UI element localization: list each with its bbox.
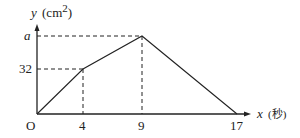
data-line [37, 36, 237, 114]
x-tick-9: 9 [138, 118, 145, 133]
y-axis-label: y (cm2) [29, 2, 72, 20]
y-tick-a: a [24, 28, 31, 43]
x-tick-4: 4 [79, 118, 86, 133]
origin-label: O [26, 118, 35, 133]
x-axis-arrow-icon [244, 112, 251, 117]
x-axis-label: x (秒) [256, 106, 287, 121]
area-time-graph: y (cm2) a 32 O 4 9 17 x (秒) [0, 0, 300, 138]
guide-lines [37, 36, 142, 114]
x-tick-17: 17 [230, 118, 244, 133]
y-axis-arrow-icon [35, 24, 40, 31]
y-tick-32: 32 [19, 61, 32, 76]
